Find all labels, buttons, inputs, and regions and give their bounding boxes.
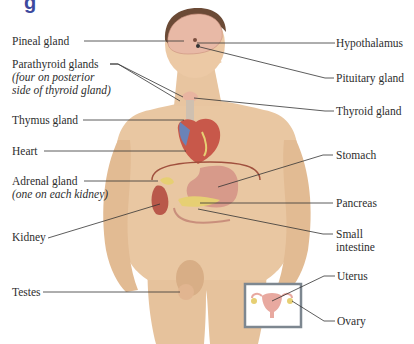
label-text: Kidney [12,231,46,243]
label-kidney: Kidney [12,231,46,244]
label-stomach: Stomach [336,149,376,162]
label-text: Thyroid gland [336,105,401,117]
label-text: Hypothalamus [336,37,403,49]
label-thymus-gland: Thymus gland [12,114,78,127]
endocrine-diagram: g [0,0,414,344]
body-illustration [0,0,414,344]
label-note: side of thyroid gland) [12,84,111,97]
label-small-intestine: Small intestine [336,228,375,254]
label-text: Testes [12,286,41,298]
label-text: Parathyroid glands [12,58,99,70]
label-adrenal-gland: Adrenal gland (one on each kidney) [12,175,108,201]
label-hypothalamus: Hypothalamus [336,37,403,50]
label-note: (four on posterior [12,71,111,84]
label-text: Pituitary gland [336,72,404,84]
label-parathyroid-glands: Parathyroid glands (four on posterior si… [12,58,111,97]
label-text: Heart [12,145,38,157]
label-text: Ovary [337,315,366,327]
label-testes: Testes [12,286,41,299]
label-text: intestine [336,241,375,254]
label-note: (one on each kidney) [12,188,108,201]
label-text: Thymus gland [12,114,78,126]
label-pineal-gland: Pineal gland [12,35,69,48]
label-text: Adrenal gland [12,175,77,187]
label-pituitary-gland: Pituitary gland [336,72,404,85]
label-heart: Heart [12,145,38,158]
label-text: Pancreas [336,197,377,209]
label-text: Pineal gland [12,35,69,47]
label-uterus: Uterus [337,270,368,283]
label-thyroid-gland: Thyroid gland [336,105,401,118]
label-pancreas: Pancreas [336,197,377,210]
label-text: Uterus [337,270,368,282]
label-text: Small [336,228,375,241]
label-ovary: Ovary [337,315,366,328]
uterus-inset [245,284,301,327]
label-text: Stomach [336,149,376,161]
